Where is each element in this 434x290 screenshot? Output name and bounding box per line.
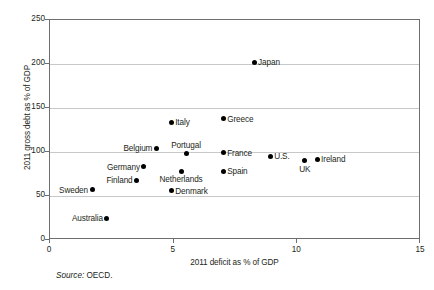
data-point-label-japan: Japan (258, 58, 280, 67)
data-point-netherlands[interactable] (179, 169, 184, 174)
x-tick-label-15: 15 (405, 245, 434, 254)
data-point-label-u-s: U.S. (274, 152, 290, 161)
data-point-uk[interactable] (302, 158, 307, 163)
data-point-label-uk: UK (299, 165, 310, 174)
data-point-u-s[interactable] (268, 154, 273, 159)
x-tick-mark-15 (419, 239, 420, 243)
data-point-sweden[interactable] (90, 187, 95, 192)
x-axis-title: 2011 deficit as % of GDP (49, 258, 420, 267)
data-point-label-greece: Greece (227, 114, 253, 123)
x-tick-label-0: 0 (34, 245, 64, 254)
data-point-label-sweden: Sweden (59, 185, 88, 194)
x-tick-mark-5 (173, 239, 174, 243)
source-prefix: Source: (56, 271, 84, 280)
data-point-label-netherlands: Netherlands (160, 175, 203, 184)
y-tick-label-100: 100 (5, 147, 45, 155)
source-note: Source: OECD. (56, 271, 112, 280)
data-point-germany[interactable] (141, 164, 146, 169)
data-point-label-italy: Italy (175, 118, 190, 127)
source-value: OECD. (84, 271, 112, 280)
plot-area: JapanGreeceItalyBelgiumFrancePortugalU.S… (49, 19, 420, 239)
gridline-y-200 (50, 64, 419, 65)
x-tick-label-10: 10 (281, 245, 311, 254)
y-tick-label-150: 150 (5, 103, 45, 111)
data-point-label-france: France (227, 148, 252, 157)
data-point-label-denmark: Denmark (175, 186, 208, 195)
data-point-france[interactable] (221, 150, 226, 155)
data-point-australia[interactable] (104, 216, 109, 221)
scatter-chart-figure: 2011 gross debt as % of GDP 050100150200… (0, 0, 434, 290)
data-point-japan[interactable] (252, 60, 257, 65)
data-point-label-belgium: Belgium (123, 144, 152, 153)
data-point-label-spain: Spain (227, 167, 247, 176)
data-point-label-ireland: Ireland (321, 155, 345, 164)
x-tick-label-5: 5 (158, 245, 188, 254)
y-tick-label-250: 250 (5, 15, 45, 23)
x-tick-mark-0 (49, 239, 50, 243)
y-tick-label-50: 50 (5, 191, 45, 199)
data-point-greece[interactable] (221, 116, 226, 121)
data-point-label-australia: Australia (72, 214, 103, 223)
y-axis-title: 2011 gross debt as % of GDP (23, 28, 32, 208)
data-point-finland[interactable] (134, 178, 139, 183)
data-point-belgium[interactable] (154, 146, 159, 151)
data-point-spain[interactable] (221, 169, 226, 174)
data-point-label-finland: Finland (106, 176, 132, 185)
data-point-ireland[interactable] (315, 157, 320, 162)
data-point-denmark[interactable] (169, 188, 174, 193)
x-tick-mark-10 (296, 239, 297, 243)
data-point-label-portugal: Portugal (171, 141, 201, 150)
data-point-label-germany: Germany (107, 162, 140, 171)
data-point-italy[interactable] (169, 120, 174, 125)
gridline-y-150 (50, 108, 419, 109)
data-point-portugal[interactable] (184, 151, 189, 156)
y-tick-label-0: 0 (5, 235, 45, 243)
gridline-y-50 (50, 196, 419, 197)
y-tick-label-200: 200 (5, 59, 45, 67)
